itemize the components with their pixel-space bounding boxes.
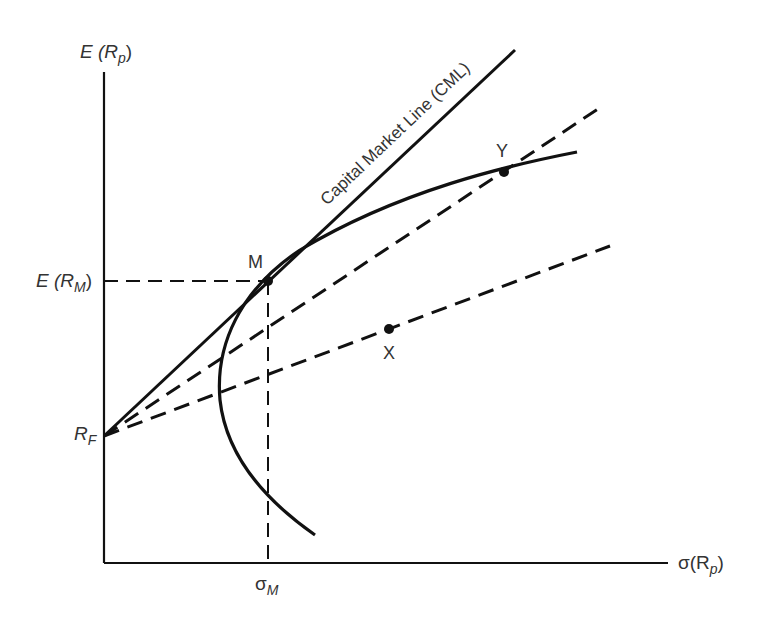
rf-label-sub: F	[88, 432, 98, 448]
rf-x-line	[104, 246, 610, 436]
cml-diagram: M Y X Capital Market Line (CML) E (Rp) E…	[0, 0, 771, 627]
efficient-frontier-curve	[219, 152, 577, 535]
y-axis-label-close: )	[126, 41, 132, 62]
y-axis-label: E (Rp)	[80, 41, 132, 66]
y-axis-label-main: E (R	[80, 41, 118, 62]
point-y	[499, 167, 509, 177]
y-axis-label-sub: p	[117, 50, 126, 66]
e-rm-label: E (RM)	[36, 270, 92, 295]
rf-label-main: R	[74, 423, 88, 444]
point-y-label: Y	[496, 141, 508, 161]
point-m	[263, 276, 273, 286]
sigma-m-label-sub: M	[267, 582, 279, 598]
x-axis-label-main: σ(R	[678, 552, 710, 573]
point-x	[384, 324, 394, 334]
e-rm-label-close: )	[86, 270, 92, 291]
sigma-m-label: σM	[255, 573, 279, 598]
sigma-m-label-main: σ	[255, 573, 267, 594]
rf-label: RF	[74, 423, 98, 448]
x-axis-label-sub: p	[709, 561, 718, 577]
e-rm-label-main: E (R	[36, 270, 74, 291]
cml-label: Capital Market Line (CML)	[317, 59, 474, 209]
x-axis-label-close: )	[718, 552, 724, 573]
point-x-label: X	[383, 343, 395, 363]
rf-y-line	[104, 109, 598, 436]
point-m-label: M	[248, 252, 263, 272]
e-rm-label-sub: M	[74, 279, 86, 295]
x-axis-label: σ(Rp)	[678, 552, 724, 577]
